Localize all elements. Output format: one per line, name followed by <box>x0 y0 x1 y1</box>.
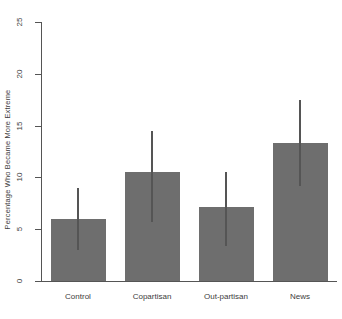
bar-group <box>125 22 180 281</box>
bar-group <box>273 22 328 281</box>
error-bar <box>77 188 78 250</box>
y-axis-title: Percentage Who Became More Extreme <box>0 0 14 319</box>
plot-area <box>41 22 337 281</box>
error-bar <box>299 100 300 186</box>
y-tick-label: 15 <box>15 114 25 138</box>
bar-group <box>51 22 106 281</box>
bar-group <box>199 22 254 281</box>
error-bar <box>151 131 152 222</box>
y-tick-label: 0 <box>15 269 25 293</box>
y-tick-label: 5 <box>15 217 25 241</box>
y-tick-label: 10 <box>15 165 25 189</box>
x-tick-label: News <box>250 292 342 301</box>
y-tick-mark <box>35 281 41 282</box>
bar-chart: Percentage Who Became More Extreme 05101… <box>0 0 342 319</box>
y-tick-label: 20 <box>15 62 25 86</box>
y-tick-label: 25 <box>15 10 25 34</box>
x-axis-line <box>41 281 337 282</box>
error-bar <box>225 172 226 246</box>
